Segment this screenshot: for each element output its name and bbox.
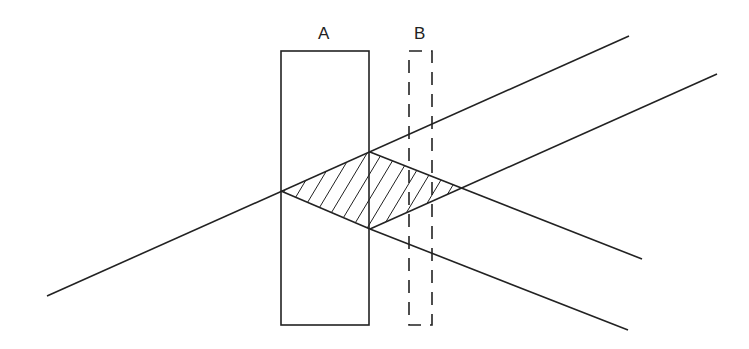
label-b: B bbox=[414, 24, 425, 43]
label-a: A bbox=[318, 24, 330, 43]
diagram-canvas: A B bbox=[0, 0, 749, 349]
ray-incident bbox=[47, 36, 629, 296]
ray-upper-right bbox=[370, 74, 717, 229]
plate-b bbox=[409, 51, 432, 325]
plate-a bbox=[281, 51, 369, 325]
rays bbox=[47, 36, 717, 330]
optics-diagram: A B bbox=[0, 0, 749, 349]
